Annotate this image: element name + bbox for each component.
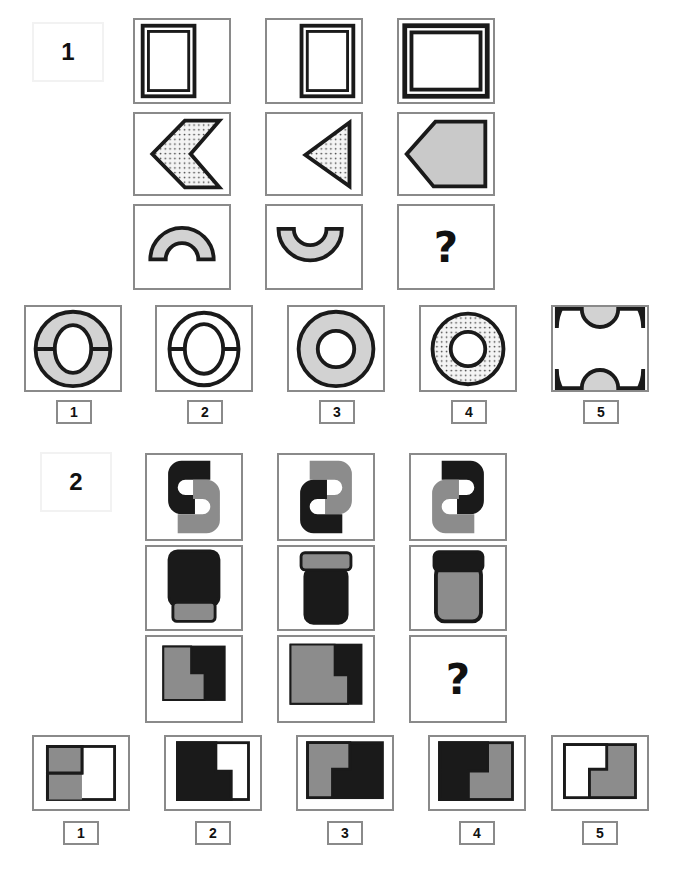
p2-option-5-label-box: 5 — [582, 821, 618, 845]
puzzle-2-question-mark: ? — [411, 637, 505, 721]
p1-option-1-label: 1 — [70, 404, 78, 420]
double-outline-rectangle-portrait-icon — [135, 20, 229, 102]
p1-option-4[interactable] — [419, 305, 517, 392]
puzzle-1-number-box: 1 — [32, 22, 104, 82]
p2-r3c3[interactable]: ? — [409, 635, 507, 723]
p2-option-1-label: 1 — [77, 825, 85, 841]
p1-option-3-label: 3 — [333, 404, 341, 420]
p1-r1c3[interactable] — [397, 18, 495, 104]
l-split-rectangle-large-icon — [279, 637, 373, 721]
pentagon-left-point-gray-icon — [399, 114, 493, 194]
ring-plain-dotted-icon — [421, 307, 515, 390]
p2-r1c3[interactable] — [409, 453, 507, 541]
p2-option-1-label-box: 1 — [63, 821, 99, 845]
s-shape-mirrored-black-gray-icon — [411, 455, 505, 539]
double-arch-hourglass-gray-icon — [553, 307, 647, 390]
l-split-rectangle-white-gray-icon — [553, 737, 647, 809]
p2-option-3-label: 3 — [341, 825, 349, 841]
l-split-rectangle-black-gray-icon — [430, 737, 524, 809]
l-split-rectangle-black-white-icon — [166, 737, 260, 809]
p2-r1c1[interactable] — [145, 453, 243, 541]
p1-r3c3[interactable]: ? — [397, 204, 495, 290]
p2-option-3-label-box: 3 — [327, 821, 363, 845]
p1-r2c1[interactable] — [133, 112, 231, 196]
p1-r2c3[interactable] — [397, 112, 495, 196]
ring-with-line-gray-icon — [26, 307, 120, 390]
p1-option-2-label: 2 — [201, 404, 209, 420]
puzzle-2-number: 2 — [69, 468, 82, 496]
jar-cap-top-gray-icon — [279, 547, 373, 629]
ring-plain-gray-icon — [289, 307, 383, 390]
ring-with-line-white-icon — [157, 307, 251, 390]
p2-option-1[interactable] — [32, 735, 130, 811]
p1-r1c2[interactable] — [265, 18, 363, 104]
p2-r3c1[interactable] — [145, 635, 243, 723]
p1-option-4-label: 4 — [465, 404, 473, 420]
p2-option-4-label: 4 — [473, 825, 481, 841]
l-split-rectangle-small-icon — [147, 637, 241, 721]
p1-option-1[interactable] — [24, 305, 122, 392]
p1-option-2-label-box: 2 — [187, 400, 223, 424]
double-outline-rectangle-portrait-icon — [267, 20, 361, 102]
p2-option-2[interactable] — [164, 735, 262, 811]
p2-r2c1[interactable] — [145, 545, 243, 631]
p1-option-5-label-box: 5 — [583, 400, 619, 424]
p2-option-5[interactable] — [551, 735, 649, 811]
p1-r1c1[interactable] — [133, 18, 231, 104]
p1-r3c2[interactable] — [265, 204, 363, 290]
p1-option-1-label-box: 1 — [56, 400, 92, 424]
p2-option-4-label-box: 4 — [459, 821, 495, 845]
puzzle-1-question-mark: ? — [399, 206, 493, 288]
p1-option-4-label-box: 4 — [451, 400, 487, 424]
p2-option-3[interactable] — [296, 735, 394, 811]
s-shape-mirrored-gray-black-icon — [279, 455, 373, 539]
p2-r3c2[interactable] — [277, 635, 375, 723]
p1-option-3[interactable] — [287, 305, 385, 392]
puzzle-2-number-box: 2 — [40, 452, 112, 512]
double-outline-rectangle-landscape-icon — [399, 20, 493, 102]
p1-r3c1[interactable] — [133, 204, 231, 290]
p1-option-5-label: 5 — [597, 404, 605, 420]
jar-cap-bottom-gray-icon — [147, 547, 241, 629]
puzzle-1-number: 1 — [61, 38, 74, 66]
p2-r1c2[interactable] — [277, 453, 375, 541]
jar-cap-top-black-icon — [411, 547, 505, 629]
p2-option-4[interactable] — [428, 735, 526, 811]
p2-r2c2[interactable] — [277, 545, 375, 631]
p1-option-3-label-box: 3 — [319, 400, 355, 424]
p2-option-2-label: 2 — [209, 825, 217, 841]
l-split-rectangle-gray-black-icon — [298, 737, 392, 809]
l-split-rectangle-gray-white-icon — [34, 737, 128, 809]
arch-down-gray-icon — [267, 206, 361, 288]
arch-up-gray-icon — [135, 206, 229, 288]
p1-option-2[interactable] — [155, 305, 253, 392]
chevron-left-dotted-icon — [135, 114, 229, 194]
p1-option-5[interactable] — [551, 305, 649, 392]
p1-r2c2[interactable] — [265, 112, 363, 196]
p2-option-2-label-box: 2 — [195, 821, 231, 845]
p2-option-5-label: 5 — [596, 825, 604, 841]
p2-r2c3[interactable] — [409, 545, 507, 631]
triangle-left-dotted-icon — [267, 114, 361, 194]
s-shape-black-gray-icon — [147, 455, 241, 539]
